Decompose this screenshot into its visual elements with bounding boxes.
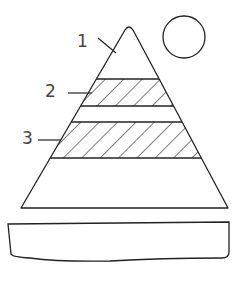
band-2-hatch [0,79,244,106]
label-3: 3 [22,128,33,148]
label-1: 1 [77,31,88,51]
band-3-hatch [0,122,244,158]
pyramid-diagram: 1 2 3 [0,0,244,281]
leader-line-1 [98,38,116,53]
label-2: 2 [45,81,56,101]
circle-shape [163,16,205,58]
base-slab [8,222,229,261]
